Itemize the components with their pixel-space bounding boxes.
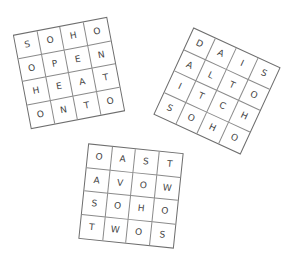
letter-cell: O [105,194,131,220]
letter-cell: T [79,215,105,241]
word-square-1: S O H O O P E N H E A T O N T O [13,17,125,129]
letter-cell: A [110,147,136,173]
word-square-2: D A I S A L T O I T C H S O H O [153,27,280,154]
letter-cell: A [84,168,110,194]
letter-cell: T [157,152,183,178]
letter-cell: V [108,170,134,196]
letter-cell: W [103,217,129,243]
letter-cell: S [82,191,108,217]
word-square-3: O A S T A V O W S O H O T W O S [78,143,183,248]
letter-cell: O [152,198,178,224]
letter-cell: S [133,149,159,175]
letter-cell: O [131,173,157,199]
letter-cell: S [150,222,176,248]
letter-cell: O [96,87,123,114]
letter-cell: W [154,175,180,201]
letter-cell: O [126,219,152,245]
letter-cell: H [129,196,155,222]
letter-cell: O [87,144,113,170]
